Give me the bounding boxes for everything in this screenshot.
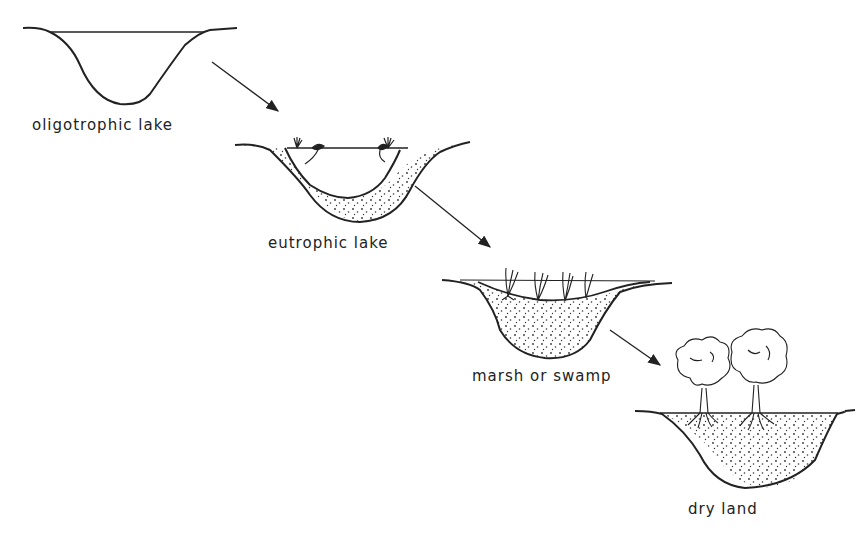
stage-label-oligotrophic-lake: oligotrophic lake (32, 116, 173, 134)
arrow-3 (610, 330, 660, 365)
oligotrophic-lake-basin (23, 28, 237, 104)
arrow-1 (212, 62, 278, 111)
stage-label-eutrophic-lake: eutrophic lake (268, 234, 389, 252)
stage-label-marsh-or-swamp: marsh or swamp (472, 367, 612, 385)
arrow-2 (415, 186, 490, 247)
dry-land-basin (635, 329, 855, 488)
marsh-basin (442, 268, 672, 358)
lake-succession-diagram (0, 0, 862, 538)
aquatic-plant-icon (294, 137, 394, 164)
stage-label-dry-land: dry land (688, 500, 758, 518)
eutrophic-lake-basin (235, 137, 470, 222)
